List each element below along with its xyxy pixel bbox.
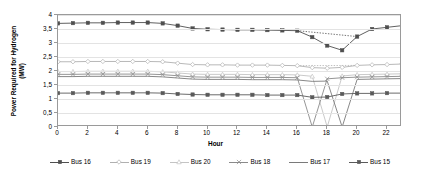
data-point-marker <box>265 63 269 67</box>
y-tick-label: 0,5 <box>26 109 52 116</box>
x-tick-mark <box>207 126 208 129</box>
data-point-marker <box>71 21 74 24</box>
x-axis-title: Hour <box>0 140 431 147</box>
data-point-marker <box>58 22 60 25</box>
data-point-marker <box>176 24 179 27</box>
legend-label: Bus 17 <box>310 158 330 166</box>
data-point-marker <box>370 63 374 67</box>
data-point-marker <box>236 93 239 96</box>
y-tick-label: 4 <box>26 11 52 18</box>
y-tick-label: 2,5 <box>26 53 52 60</box>
data-point-marker <box>385 62 389 66</box>
legend-item-bus-18[interactable]: Bus 18 <box>229 158 270 166</box>
legend-label: Bus 19 <box>131 158 151 166</box>
series-bus-16 <box>58 21 401 52</box>
data-point-marker <box>58 60 60 64</box>
x-tick-label: 18 <box>316 129 336 136</box>
series-annotation-dotted <box>297 31 357 37</box>
data-point-marker <box>355 92 358 95</box>
x-tick-mark <box>236 126 237 129</box>
legend-item-bus-17[interactable]: Bus 17 <box>289 158 330 166</box>
legend-marker-icon <box>349 158 368 166</box>
series-bus-19 <box>58 59 401 70</box>
legend-marker-icon <box>229 158 248 166</box>
x-tick-label: 0 <box>47 129 67 136</box>
y-tick-label: 3 <box>26 39 52 46</box>
legend-item-bus-15[interactable]: Bus 15 <box>349 158 390 166</box>
series-line <box>58 74 401 126</box>
data-point-marker <box>385 91 388 94</box>
data-point-marker <box>296 93 299 96</box>
data-point-marker <box>311 35 314 38</box>
data-point-marker <box>310 65 314 69</box>
series-bus-17 <box>58 76 401 126</box>
x-tick-label: 10 <box>197 129 217 136</box>
data-point-marker <box>355 63 359 67</box>
legend-item-bus-20[interactable]: Bus 20 <box>170 158 211 166</box>
x-tick-mark <box>147 126 148 129</box>
data-point-marker <box>340 92 343 95</box>
data-point-marker <box>86 59 90 63</box>
data-point-marker <box>355 35 358 38</box>
x-tick-mark <box>386 126 387 129</box>
data-point-marker <box>235 63 239 67</box>
data-point-marker <box>281 93 284 96</box>
x-tick-mark <box>266 126 267 129</box>
x-tick-label: 2 <box>77 129 97 136</box>
x-tick-mark <box>57 126 58 129</box>
x-tick-label: 16 <box>286 129 306 136</box>
gridline <box>58 29 400 30</box>
data-point-marker <box>310 125 314 126</box>
data-point-marker <box>176 92 179 95</box>
x-tick-label: 4 <box>107 129 127 136</box>
legend-marker-icon <box>289 158 308 166</box>
series-line <box>58 61 401 68</box>
x-tick-mark <box>117 126 118 129</box>
data-point-marker <box>101 21 104 24</box>
data-point-marker <box>71 60 75 64</box>
data-point-marker <box>161 91 164 94</box>
series-line <box>58 23 401 51</box>
gridline <box>58 15 400 16</box>
data-point-marker <box>400 74 401 78</box>
data-point-marker <box>116 59 120 63</box>
data-point-marker <box>251 93 254 96</box>
data-point-marker <box>266 93 269 96</box>
series-line <box>58 93 401 97</box>
data-point-marker <box>161 60 165 64</box>
legend-item-bus-16[interactable]: Bus 16 <box>50 158 91 166</box>
gridline <box>58 99 400 100</box>
gridline <box>58 43 400 44</box>
data-point-marker <box>86 91 89 94</box>
data-point-marker <box>325 66 329 70</box>
x-tick-label: 6 <box>137 129 157 136</box>
x-tick-mark <box>177 126 178 129</box>
chart-figure: Power Required for Hydrogen (MW) 00,511,… <box>0 0 431 181</box>
x-tick-mark <box>87 126 88 129</box>
gridline <box>58 57 400 58</box>
legend-label: Bus 20 <box>191 158 211 166</box>
data-point-marker <box>116 91 119 94</box>
legend-marker-icon <box>50 158 69 166</box>
data-point-marker <box>370 92 373 95</box>
y-tick-label: 3,5 <box>26 25 52 32</box>
legend-label: Bus 16 <box>71 158 91 166</box>
data-point-marker <box>101 59 105 63</box>
data-point-marker <box>58 91 60 94</box>
legend-label: Bus 18 <box>250 158 270 166</box>
data-point-marker <box>205 63 209 67</box>
gridline <box>58 71 400 72</box>
x-tick-mark <box>356 126 357 129</box>
data-point-marker <box>146 59 150 63</box>
data-point-marker <box>206 93 209 96</box>
data-point-marker <box>161 22 164 25</box>
data-point-marker <box>326 44 329 47</box>
x-tick-label: 20 <box>346 129 366 136</box>
x-tick-label: 12 <box>226 129 246 136</box>
data-point-marker <box>325 125 329 126</box>
legend-marker-icon <box>170 158 189 166</box>
data-point-marker <box>191 93 194 96</box>
data-point-marker <box>250 63 254 67</box>
data-point-marker <box>146 91 149 94</box>
legend-item-bus-19[interactable]: Bus 19 <box>110 158 151 166</box>
